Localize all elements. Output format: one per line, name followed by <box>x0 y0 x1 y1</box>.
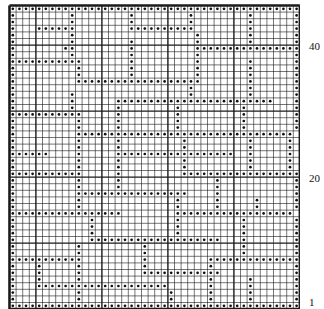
dot-stitch <box>71 106 74 109</box>
dot-stitch <box>295 80 298 83</box>
dot-stitch <box>190 153 193 156</box>
dot-stitch <box>31 113 34 116</box>
dot-stitch <box>223 133 226 136</box>
dot-stitch <box>77 186 80 189</box>
dot-stitch <box>11 265 14 268</box>
dot-stitch <box>31 212 34 215</box>
dot-stitch <box>110 80 113 83</box>
dot-stitch <box>289 258 292 261</box>
dot-stitch <box>209 238 212 241</box>
dot-stitch <box>289 47 292 50</box>
dot-stitch <box>84 285 87 288</box>
dot-stitch <box>51 27 54 30</box>
dot-stitch <box>77 179 80 182</box>
dot-stitch <box>216 238 219 241</box>
dot-stitch <box>295 192 298 195</box>
dot-stitch <box>183 7 186 10</box>
dot-stitch <box>77 212 80 215</box>
dot-stitch <box>190 238 193 241</box>
dot-stitch <box>18 212 21 215</box>
dot-stitch <box>295 93 298 96</box>
dot-stitch <box>38 172 41 175</box>
dot-stitch <box>262 47 265 50</box>
dot-stitch <box>295 73 298 76</box>
dot-stitch <box>190 133 193 136</box>
dot-stitch <box>249 7 252 10</box>
dot-stitch <box>190 21 193 24</box>
dot-stitch <box>295 60 298 63</box>
dot-stitch <box>249 67 252 70</box>
dot-stitch <box>11 139 14 142</box>
dot-stitch <box>275 47 278 50</box>
dot-stitch <box>110 285 113 288</box>
dot-stitch <box>190 304 193 307</box>
dot-stitch <box>236 133 239 136</box>
knitting-chart-grid <box>8 4 300 309</box>
dot-stitch <box>104 304 107 307</box>
dot-stitch <box>170 304 173 307</box>
dot-stitch <box>64 113 67 116</box>
dot-stitch <box>183 139 186 142</box>
dot-stitch <box>262 100 265 103</box>
dot-stitch <box>104 133 107 136</box>
dot-stitch <box>25 60 28 63</box>
dot-stitch <box>71 34 74 37</box>
dot-stitch <box>130 133 133 136</box>
dot-stitch <box>295 298 298 301</box>
dot-stitch <box>262 133 265 136</box>
dot-stitch <box>203 153 206 156</box>
dot-stitch <box>124 153 127 156</box>
dot-stitch <box>77 139 80 142</box>
dot-stitch <box>216 47 219 50</box>
dot-stitch <box>216 133 219 136</box>
dot-stitch <box>229 7 232 10</box>
dot-stitch <box>196 172 199 175</box>
dot-stitch <box>77 67 80 70</box>
dot-stitch <box>130 192 133 195</box>
dot-stitch <box>295 258 298 261</box>
dot-stitch <box>236 172 239 175</box>
dot-stitch <box>190 271 193 274</box>
dot-stitch <box>137 133 140 136</box>
dot-stitch <box>249 21 252 24</box>
dot-stitch <box>31 304 34 307</box>
dot-stitch <box>216 172 219 175</box>
dot-stitch <box>77 258 80 261</box>
dot-stitch <box>223 7 226 10</box>
dot-stitch <box>77 7 80 10</box>
dot-stitch <box>38 60 41 63</box>
dot-stitch <box>209 7 212 10</box>
dot-stitch <box>143 245 146 248</box>
dot-stitch <box>249 159 252 162</box>
dot-stitch <box>209 291 212 294</box>
dot-stitch <box>71 93 74 96</box>
dot-stitch <box>256 7 259 10</box>
dot-stitch <box>77 265 80 268</box>
row-label-40: 40 <box>309 40 320 52</box>
dot-stitch <box>295 34 298 37</box>
dot-stitch <box>117 192 120 195</box>
dot-stitch <box>249 47 252 50</box>
dot-stitch <box>11 120 14 123</box>
dot-stitch <box>110 133 113 136</box>
dot-stitch <box>176 219 179 222</box>
dot-stitch <box>249 291 252 294</box>
dot-stitch <box>51 258 54 261</box>
dot-stitch <box>77 146 80 149</box>
dot-stitch <box>242 238 245 241</box>
dot-stitch <box>130 153 133 156</box>
dot-stitch <box>275 258 278 261</box>
dot-stitch <box>143 238 146 241</box>
dot-stitch <box>77 298 80 301</box>
dot-stitch <box>242 126 245 129</box>
dot-stitch <box>11 40 14 43</box>
dot-stitch <box>242 232 245 235</box>
dot-stitch <box>163 304 166 307</box>
dot-stitch <box>176 205 179 208</box>
dot-stitch <box>183 304 186 307</box>
dot-stitch <box>229 100 232 103</box>
dot-stitch <box>209 258 212 261</box>
dot-stitch <box>31 7 34 10</box>
dot-stitch <box>117 139 120 142</box>
dot-stitch <box>130 21 133 24</box>
